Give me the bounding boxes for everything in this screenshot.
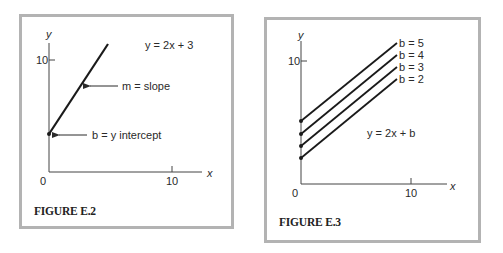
figure-e2-x-label: x: [206, 167, 213, 179]
figure-e3-point-b2: [299, 156, 303, 160]
figure-e2-frame: [21, 16, 233, 228]
figure-e3-x-label: x: [449, 180, 456, 192]
figure-e2-slope-label: m = slope: [122, 80, 170, 92]
figure-e3-point-b5: [299, 119, 303, 123]
figure-e3-y-tick-label: 10: [288, 55, 300, 67]
figure-e3-label-b5: b = 5: [399, 37, 424, 49]
figure-e3-label-b2: b = 2: [399, 73, 424, 85]
figure-e3: y 10 0 10 x b = 5 b = 4 b = 3 b = 2 y = …: [266, 19, 480, 242]
figure-e3-label-b3: b = 3: [399, 61, 424, 73]
figure-e2-caption: FIGURE E.2: [34, 205, 96, 217]
figure-e3-point-b3: [299, 144, 303, 148]
figure-e3-origin-label: 0: [292, 187, 298, 199]
figure-e3-caption: FIGURE E.3: [279, 216, 341, 228]
figures-canvas: y 10 0 10 x y = 2x + 3 m = slope b = y i…: [0, 0, 503, 253]
figure-e2-origin-label: 0: [40, 175, 46, 187]
figure-e2-intercept-label: b = y intercept: [92, 129, 161, 141]
figure-e2-x-tick-label: 10: [166, 175, 178, 187]
figure-e3-equation: y = 2x + b: [367, 127, 415, 139]
figure-e2-equation: y = 2x + 3: [145, 39, 193, 51]
figure-e3-x-tick-label: 10: [405, 187, 417, 199]
figure-e2-y-tick-label: 10: [36, 54, 48, 66]
figure-e2-intercept-point: [47, 132, 51, 136]
figure-e3-label-b4: b = 4: [399, 49, 424, 61]
figure-e2: y 10 0 10 x y = 2x + 3 m = slope b = y i…: [21, 16, 233, 228]
figure-e3-point-b4: [299, 132, 303, 136]
